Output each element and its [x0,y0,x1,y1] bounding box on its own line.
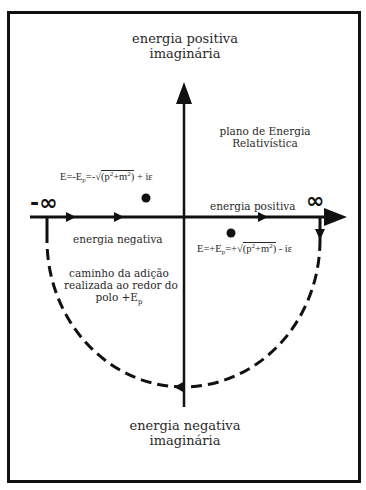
contour-label-line1: caminho da adição [64,267,174,279]
contour-down-arrow-icon [315,229,325,240]
plane-label-line1: plano de Energia [205,125,325,137]
top-axis-title-line1: energia positiva [110,32,260,47]
energy-plane-diagram [0,0,366,490]
contour-label-line3: polo +Ep [64,291,174,306]
top-axis-title: energia positiva imaginária [110,32,260,62]
top-axis-title-line2: imaginária [110,47,260,62]
positive-energy-pole-dot [227,229,236,238]
contour-left-arrow-icon [174,381,185,393]
direction-arrow-icon [258,212,268,222]
contour-label-line2: realizada ao redor do [64,279,174,291]
imaginary-axis-arrowhead-icon [176,82,192,104]
contour-label: caminho da adição realizada ao redor do … [64,267,174,306]
plus-infinity-label: ∞ [306,190,324,212]
real-axis-arrowhead-icon [324,208,347,226]
bottom-axis-title: energia negativa imaginária [110,419,260,449]
negative-energy-pole-dot [142,194,151,203]
positive-energy-label: energia positiva [210,200,295,212]
plane-label: plano de Energia Relativística [205,125,325,149]
negative-pole-formula: E=-Ep=-√(p2+m2) + iε [60,170,153,184]
bottom-axis-title-line1: energia negativa [110,419,260,434]
direction-arrow-icon [114,212,124,222]
minus-infinity-label: -∞ [30,192,57,214]
direction-arrow-icon [66,212,76,222]
bottom-axis-title-line2: imaginária [110,434,260,449]
negative-energy-label: energia negativa [73,233,163,245]
plane-label-line2: Relativística [205,137,325,149]
positive-pole-formula: E=+Ep=+√(p2+m2) - iε [197,242,292,256]
